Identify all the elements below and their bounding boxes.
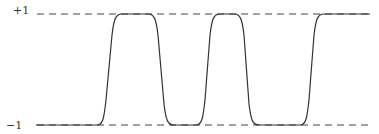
y-label-minus-one: −1 — [6, 119, 22, 132]
y-label-plus-one: +1 — [13, 4, 29, 17]
wave-chart: +1 −1 — [0, 0, 379, 134]
wave-curve — [36, 14, 370, 125]
